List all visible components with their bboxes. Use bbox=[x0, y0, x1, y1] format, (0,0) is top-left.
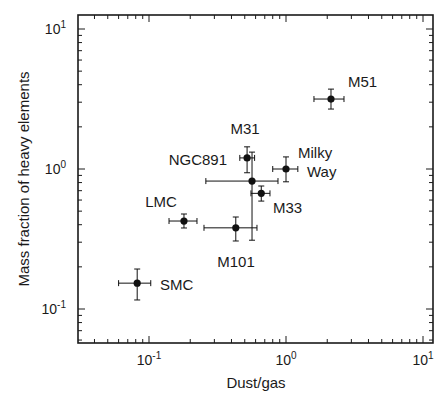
y-tick-labels: 10-1100101 bbox=[42, 19, 67, 317]
point-marker bbox=[243, 154, 250, 161]
y-tick-label: 100 bbox=[45, 159, 67, 177]
point-marker bbox=[232, 224, 239, 231]
y-tick-label: 10-1 bbox=[42, 299, 67, 317]
plot-frame bbox=[78, 15, 433, 343]
data-point-lmc bbox=[169, 214, 197, 228]
point-marker bbox=[327, 95, 334, 102]
data-point-milky-way bbox=[273, 157, 298, 182]
data-point-m33 bbox=[251, 186, 270, 201]
x-axis-label: Dust/gas bbox=[226, 374, 285, 391]
data-point-m51 bbox=[314, 89, 344, 109]
point-marker bbox=[248, 177, 255, 184]
x-tick-label: 10-1 bbox=[137, 350, 162, 368]
x-tick-label: 100 bbox=[275, 350, 297, 368]
y-axis-label: Mass fraction of heavy elements bbox=[15, 71, 32, 286]
label-m101: M101 bbox=[217, 253, 255, 270]
data-point-smc bbox=[119, 269, 151, 300]
label-m31: M31 bbox=[230, 120, 259, 137]
x-tick-labels: 10-1100101 bbox=[137, 350, 434, 368]
label-smc: SMC bbox=[160, 276, 194, 293]
label-milky-way-line2: Way bbox=[307, 163, 337, 180]
point-marker bbox=[180, 217, 187, 224]
label-m51: M51 bbox=[348, 73, 377, 90]
data-point-m101 bbox=[204, 217, 257, 241]
point-marker bbox=[258, 190, 265, 197]
minor-ticks bbox=[78, 15, 433, 343]
point-labels: SMCLMCM101NGC891M31M33MilkyWayM51 bbox=[145, 73, 377, 293]
point-marker bbox=[134, 280, 141, 287]
y-tick-label: 101 bbox=[45, 19, 67, 37]
major-ticks bbox=[78, 15, 433, 343]
point-marker bbox=[282, 165, 289, 172]
x-tick-label: 101 bbox=[412, 350, 434, 368]
label-milky-way: Milky bbox=[298, 144, 333, 161]
label-ngc891: NGC891 bbox=[169, 151, 227, 168]
label-lmc: LMC bbox=[145, 193, 177, 210]
scatter-chart: 10-1100101 10-1100101 SMCLMCM101NGC891M3… bbox=[0, 0, 448, 407]
label-m33: M33 bbox=[273, 199, 302, 216]
